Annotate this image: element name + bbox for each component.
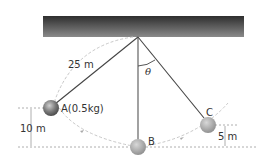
point-c-label: C [206, 107, 213, 118]
ball-b [130, 139, 146, 155]
string-to-a [55, 37, 138, 104]
string-to-c [138, 37, 204, 118]
ceiling [43, 16, 244, 37]
point-a-label: A(0.5kg) [61, 103, 104, 114]
string-length-label: 25 m [68, 59, 94, 70]
ball-a [43, 100, 59, 116]
point-b-label: B [148, 136, 155, 147]
pendulum-diagram: 25 m θ A(0.5kg) B C 10 m 5 m [0, 0, 270, 168]
swing-path [55, 37, 228, 147]
path-arrow-left [80, 130, 84, 133]
path-arrow-right [180, 137, 184, 140]
height-c-label: 5 m [218, 131, 237, 142]
height-a-label: 10 m [20, 123, 46, 134]
angle-label: θ [145, 66, 151, 77]
ball-c [200, 117, 216, 133]
